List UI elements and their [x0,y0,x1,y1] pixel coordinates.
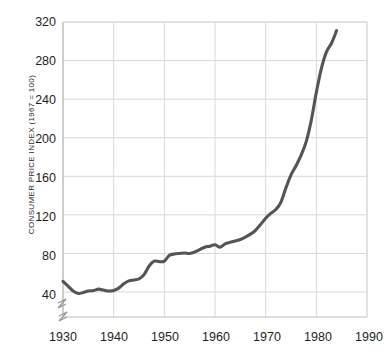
cpi-data-line [63,31,337,294]
chart-plot-area [0,0,392,362]
chart-figure: CONSUMER PRICE INDEX (1967 = 100) 320 28… [0,0,392,362]
